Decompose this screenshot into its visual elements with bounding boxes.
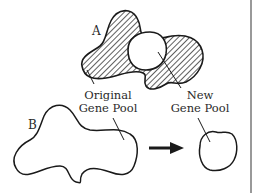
founder-effect-diagram: A Original Gene Pool New Gene Pool B [0,0,254,193]
arrow-right-icon [149,142,184,154]
label-new-line2: Gene Pool [171,101,230,115]
label-new-line1: New [187,88,214,102]
leader-new-to-circle [198,118,210,142]
label-original-line1: Original [84,88,132,102]
new-population-shape [199,132,236,171]
label-b: B [28,118,37,132]
label-a: A [91,24,101,38]
new-population-hole [128,32,166,70]
label-original-line2: Gene Pool [79,101,138,115]
population-b-shape [14,105,137,183]
population-a [82,11,203,89]
